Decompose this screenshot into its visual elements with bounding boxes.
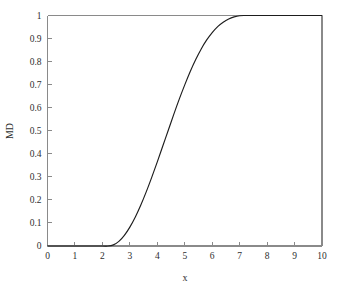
x-tick-label: 3	[127, 251, 132, 261]
y-tick-label: 0.4	[30, 149, 42, 159]
x-tick-label: 10	[317, 251, 327, 261]
x-tick-label: 0	[45, 251, 50, 261]
tick-marks	[48, 16, 323, 247]
x-tick-label: 6	[210, 251, 215, 261]
y-tick-labels: 00.10.20.30.40.50.60.70.80.91	[30, 11, 42, 252]
x-tick-label: 4	[155, 251, 160, 261]
y-tick-label: 0.6	[30, 103, 42, 113]
x-tick-label: 7	[237, 251, 242, 261]
y-tick-label: 0.3	[30, 172, 42, 182]
y-tick-label: 0.2	[30, 195, 42, 205]
x-tick-labels: 012345678910	[45, 251, 327, 261]
y-tick-label: 0	[37, 241, 42, 251]
x-axis-title: x	[183, 272, 188, 283]
x-tick-label: 2	[100, 251, 105, 261]
x-tick-label: 1	[73, 251, 78, 261]
y-tick-label: 0.8	[30, 57, 42, 67]
data-series-line	[48, 15, 323, 246]
y-tick-label: 0.1	[30, 218, 42, 228]
data-series-group	[48, 15, 323, 246]
chart-figure: 012345678910 00.10.20.30.40.50.60.70.80.…	[0, 0, 345, 286]
y-tick-label: 0.7	[30, 80, 42, 90]
x-tick-label: 8	[265, 251, 270, 261]
y-tick-label: 1	[37, 11, 42, 21]
y-tick-label: 0.5	[30, 126, 42, 136]
y-axis-title: MD	[4, 123, 15, 139]
plot-frame	[48, 16, 323, 247]
line-chart: 012345678910 00.10.20.30.40.50.60.70.80.…	[0, 0, 345, 286]
x-tick-label: 9	[292, 251, 297, 261]
y-tick-label: 0.9	[30, 34, 42, 44]
x-tick-label: 5	[182, 251, 187, 261]
